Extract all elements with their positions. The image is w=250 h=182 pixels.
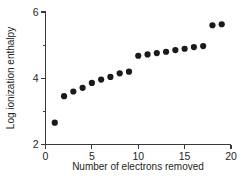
data-point — [89, 80, 95, 86]
y-tick-label-2: 2 — [33, 138, 39, 150]
x-tick-label-15: 15 — [179, 150, 191, 162]
y-axis-title: Log ionization enthalpy — [5, 27, 16, 129]
data-point — [219, 21, 225, 27]
x-tick-label-20: 20 — [225, 150, 237, 162]
figure-caption-partial — [0, 173, 250, 182]
data-point — [144, 51, 150, 57]
x-axis-ticks — [46, 145, 232, 150]
data-point — [70, 88, 76, 94]
y-tick-label-4: 4 — [33, 72, 39, 84]
data-point — [117, 70, 123, 76]
x-axis-title: Number of electrons removed — [72, 161, 204, 172]
data-point — [209, 22, 215, 28]
y-axis: 246 Log ionization enthalpy — [5, 6, 46, 151]
x-tick-label-0: 0 — [43, 150, 49, 162]
data-point — [163, 49, 169, 55]
x-axis-tick-labels: 05101520 — [43, 150, 237, 162]
x-tick-label-5: 5 — [89, 150, 95, 162]
data-point — [200, 43, 206, 49]
data-point — [98, 76, 104, 82]
ionization-enthalpy-scatter-chart: 246 Log ionization enthalpy 05101520 Num… — [0, 0, 250, 182]
data-point — [172, 47, 178, 53]
y-axis-tick-labels: 246 — [33, 6, 39, 151]
data-point — [135, 53, 141, 59]
figure-container: 246 Log ionization enthalpy 05101520 Num… — [0, 0, 250, 182]
data-point — [154, 50, 160, 56]
x-axis: 05101520 Number of electrons removed — [43, 145, 237, 173]
x-tick-label-10: 10 — [132, 150, 144, 162]
data-point-group — [52, 21, 225, 126]
data-point — [182, 46, 188, 52]
data-point — [126, 69, 132, 75]
data-point — [80, 85, 86, 91]
data-point — [191, 44, 197, 50]
data-point — [61, 93, 67, 99]
data-point — [52, 120, 58, 126]
data-point — [107, 74, 113, 80]
y-axis-ticks — [41, 12, 46, 145]
y-tick-label-6: 6 — [33, 6, 39, 18]
